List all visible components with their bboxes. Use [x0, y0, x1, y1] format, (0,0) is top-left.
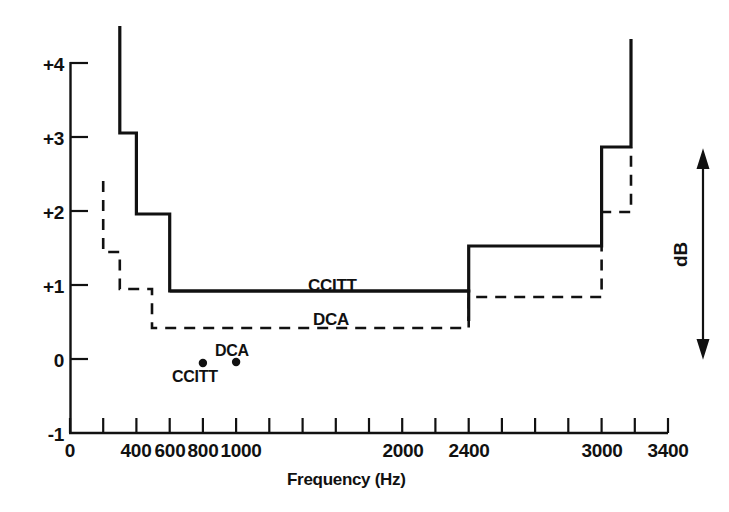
y-tick-label-1: +1 — [26, 277, 64, 296]
x-axis-ticks — [70, 418, 668, 433]
y-tick-label-4: +4 — [26, 55, 64, 74]
chart-plot-area — [0, 0, 729, 512]
y-tick-label-2: +2 — [26, 203, 64, 222]
y-tick-label-0: 0 — [26, 351, 64, 370]
db-arrow — [698, 152, 708, 356]
y-axis-ticks — [70, 63, 88, 359]
data-point-dca — [232, 358, 240, 366]
x-axis-title: Frequency (Hz) — [287, 471, 406, 488]
series-ccitt-curve-right — [170, 39, 631, 291]
x-tick-label-3400: 3400 — [637, 441, 699, 460]
x-tick-label-2000: 2000 — [372, 441, 434, 460]
x-tick-label-0: 0 — [58, 441, 82, 460]
series-ccitt-curve — [120, 26, 469, 321]
series-label-ccitt: CCITT — [308, 277, 357, 294]
x-tick-label-3000: 3000 — [571, 441, 633, 460]
point-label-ccitt: CCITT — [172, 369, 218, 385]
data-point-ccitt — [199, 359, 207, 367]
y-axis-title-db: dB — [671, 235, 690, 275]
point-label-dca: DCA — [215, 343, 249, 359]
series-dca-curve — [103, 147, 631, 328]
x-tick-label-1000: 1000 — [210, 441, 272, 460]
page-edge-fill — [0, 498, 729, 512]
y-tick-label-3: +3 — [26, 129, 64, 148]
x-tick-label-2400: 2400 — [438, 441, 500, 460]
chart-figure: +4 +3 +2 +1 0 -1 0 400 600 800 1000 2000… — [0, 0, 729, 512]
series-label-dca: DCA — [313, 311, 349, 328]
